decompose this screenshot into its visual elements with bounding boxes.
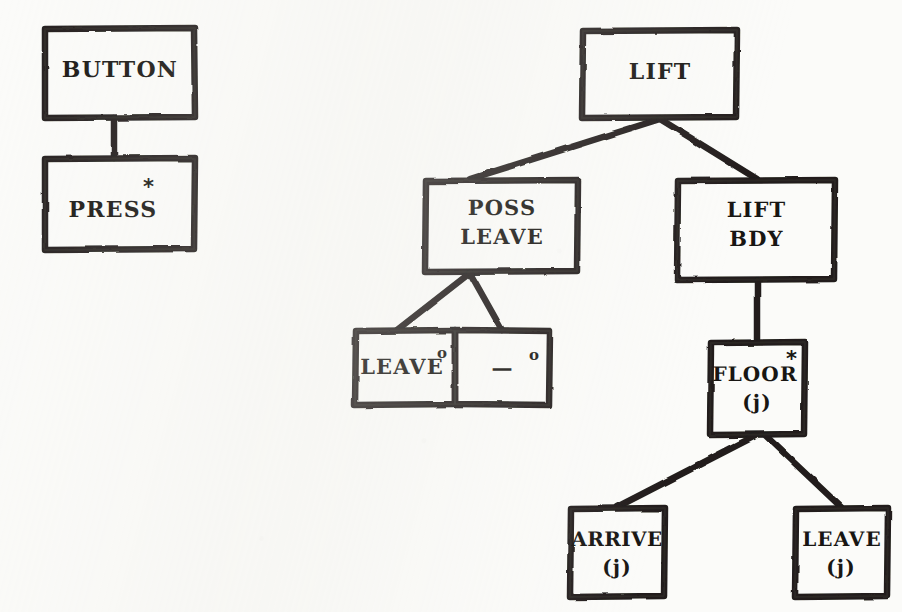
box-outline-lift-bdy (677, 180, 835, 280)
diagram-canvas: BUTTON PRESS * LIFT POSS LEAVE LIFT BDY … (0, 0, 902, 612)
box-outline-null-selection (455, 330, 550, 405)
connector-floor-leave (766, 436, 841, 507)
box-outline-poss-leave (425, 180, 578, 272)
box-outline-lift (582, 30, 737, 118)
connector-possleave-leave (397, 273, 470, 330)
box-outline-leave-selection (355, 330, 455, 405)
connector-lift-possleave (470, 119, 660, 179)
box-outline-press (45, 158, 195, 250)
box-outline-arrive (570, 508, 665, 597)
box-outline-leave-j (795, 508, 888, 597)
box-outline-floor (710, 342, 805, 435)
connector-lift-liftbdy (660, 119, 757, 179)
connector-floor-arrive (617, 436, 755, 507)
connector-possleave-null (470, 273, 502, 330)
diagram-ink-layer (0, 0, 902, 612)
box-outline-button (45, 28, 195, 118)
